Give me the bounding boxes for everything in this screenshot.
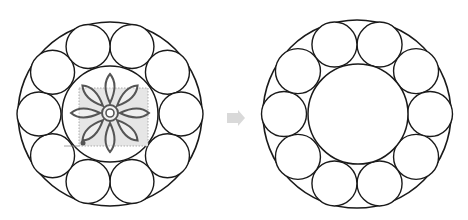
small-circle (408, 92, 453, 137)
figure-after-ring-empty-center (262, 20, 453, 208)
small-circle (357, 22, 402, 67)
small-circle (159, 92, 203, 136)
small-circle (312, 161, 357, 206)
small-circle (17, 92, 61, 136)
flower-center-inner-ring (106, 109, 114, 117)
small-circle (145, 50, 189, 94)
small-circle (275, 134, 320, 179)
small-circle (66, 24, 110, 68)
small-circle (262, 92, 307, 137)
small-circle (357, 161, 402, 206)
resize-handle[interactable] (81, 141, 86, 146)
arrow-right-shape (227, 110, 245, 126)
small-circle (110, 160, 154, 204)
diagram-canvas (0, 0, 468, 220)
small-circle (31, 134, 75, 178)
flower-icon[interactable] (71, 74, 149, 152)
small-circle (275, 49, 320, 94)
figure-before-ring-with-flower (17, 22, 203, 206)
inner-circle (308, 64, 408, 164)
small-circle (312, 22, 357, 67)
transition-arrow-icon (227, 110, 245, 126)
